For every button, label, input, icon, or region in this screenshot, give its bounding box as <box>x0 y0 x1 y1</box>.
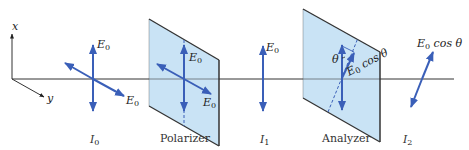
field-label-vertical: E0 <box>96 38 110 52</box>
field-vector-front <box>93 79 124 96</box>
polarization-diagram: x y E0 E0 I0 E0 E0 Polarizer E0 I1 <box>0 0 469 150</box>
y-axis-arrow <box>12 79 44 97</box>
stage-i2: E0 cos θ I2 <box>402 37 463 147</box>
intensity-label-i0: I0 <box>89 133 99 147</box>
output-field-label: E0 cos θ <box>416 37 463 51</box>
field-vector-back <box>65 63 93 79</box>
stage-i0: E0 E0 I0 <box>65 38 139 147</box>
analyzer-caption: Analyzer <box>321 132 372 145</box>
output-field-up <box>422 52 433 79</box>
x-axis-label: x <box>12 20 19 33</box>
stage-i1: E0 I1 <box>259 41 279 147</box>
y-axis-label: y <box>46 92 54 105</box>
field-label-horizontal: E0 <box>125 94 139 108</box>
intensity-label-i2: I2 <box>402 133 412 147</box>
analyzer: θ E0 cos θ Analyzer <box>303 9 391 145</box>
output-field-down <box>411 79 422 107</box>
field-label: E0 <box>265 41 279 55</box>
polarizer-caption: Polarizer <box>160 132 211 145</box>
coordinate-axes: x y <box>12 20 54 105</box>
intensity-label-i1: I1 <box>259 133 269 147</box>
polarizer: E0 E0 Polarizer <box>149 19 219 146</box>
angle-theta-label: θ <box>332 53 339 66</box>
